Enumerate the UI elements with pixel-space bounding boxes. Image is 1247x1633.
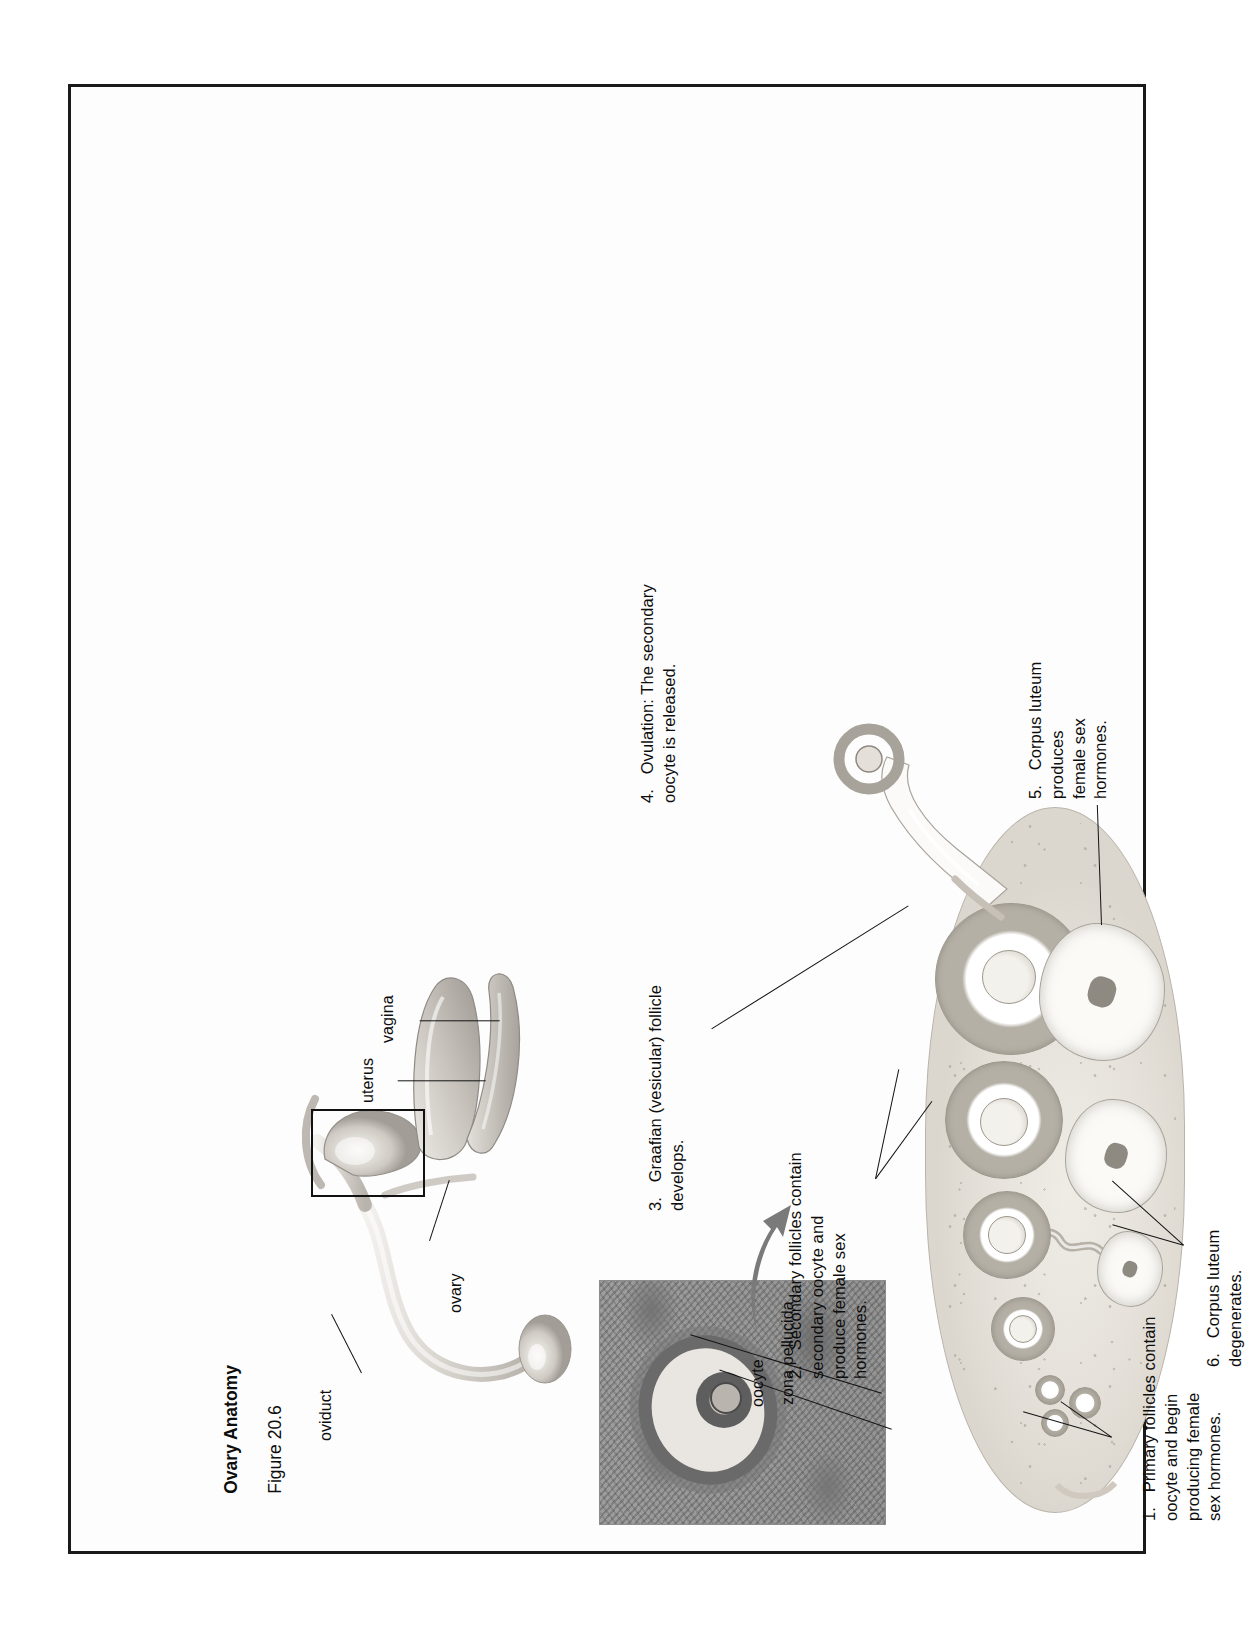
- step-4-text: Ovulation: The secondary oocyte is relea…: [638, 584, 678, 803]
- ovary-zoom-box: [311, 1109, 425, 1197]
- step-2-text: Secondary follicles contain secondary oo…: [786, 1152, 869, 1379]
- ovulation-structure: [829, 701, 1019, 941]
- step-2: 2. Secondary follicles contain secondary…: [785, 1039, 872, 1379]
- label-uterus: uterus: [357, 1058, 378, 1103]
- secondary-follicle-1-oocyte: [988, 1216, 1026, 1254]
- step-3-text: Graafian (vesicular) follicle develops.: [646, 985, 686, 1211]
- figure-title: Ovary Anatomy: [221, 1365, 241, 1494]
- step-2-number: 2.: [786, 1365, 804, 1379]
- step-5-text: Corpus luteum produces female sex hormon…: [1026, 662, 1109, 799]
- graafian-follicle-oocyte: [982, 950, 1036, 1004]
- step-3-number: 3.: [646, 1197, 664, 1211]
- primary-follicle-oocyte: [1009, 1315, 1037, 1343]
- secondary-follicle-1: [963, 1191, 1051, 1279]
- label-oocyte: oocyte: [747, 1359, 768, 1407]
- step-5-number: 5.: [1026, 785, 1044, 799]
- corpus-luteum-mature: [1039, 923, 1165, 1061]
- label-ovary: ovary: [445, 1273, 466, 1313]
- label-vagina: vagina: [377, 995, 398, 1043]
- secondary-follicle-2-oocyte: [980, 1098, 1028, 1146]
- step-3-leader: [711, 905, 908, 1029]
- step-4-number: 4.: [638, 789, 656, 803]
- secondary-follicle-2: [945, 1061, 1063, 1179]
- step-6: 6. Corpus luteum degenerates.: [1203, 1117, 1247, 1367]
- vagina-leader: [420, 1020, 500, 1021]
- reproductive-tract-illustration: [259, 961, 589, 1391]
- step-4: 4. Ovulation: The secondary oocyte is re…: [637, 473, 681, 803]
- micrograph-oocyte: [710, 1382, 742, 1414]
- primordial-follicle-3: [1069, 1387, 1101, 1419]
- rotated-figure-canvas: Ovary Anatomy Figure 20.6: [139, 171, 1217, 1633]
- step-6-number: 6.: [1204, 1353, 1222, 1367]
- primary-follicle: [991, 1297, 1055, 1361]
- step-6-text: Corpus luteum degenerates.: [1204, 1230, 1244, 1367]
- step-5: 5. Corpus luteum produces female sex hor…: [1025, 569, 1112, 799]
- figure-number: Figure 20.6: [265, 1405, 285, 1494]
- uterus-leader: [398, 1080, 486, 1081]
- step-3: 3. Graafian (vesicular) follicle develop…: [645, 891, 689, 1211]
- label-oviduct: oviduct: [315, 1390, 336, 1441]
- figure-page-frame: Ovary Anatomy Figure 20.6: [68, 84, 1146, 1554]
- step-1-number: 1.: [1140, 1507, 1158, 1521]
